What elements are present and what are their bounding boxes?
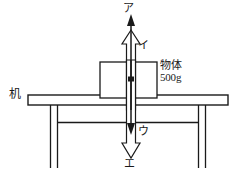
point-of-application-dot <box>128 77 134 82</box>
label-desk: 机 <box>9 88 21 101</box>
diagram-canvas <box>0 0 239 178</box>
label-object-mass: 500g <box>160 72 182 84</box>
label-arrow-u: ウ <box>138 126 149 138</box>
label-arrow-i: イ <box>138 40 149 52</box>
label-object: 物体 500g <box>160 60 182 83</box>
label-object-name: 物体 <box>160 60 182 72</box>
force-diagram-figure: ア イ ウ エ 机 物体 500g <box>0 0 239 178</box>
label-arrow-a: ア <box>123 3 134 15</box>
label-arrow-e: エ <box>124 158 135 170</box>
